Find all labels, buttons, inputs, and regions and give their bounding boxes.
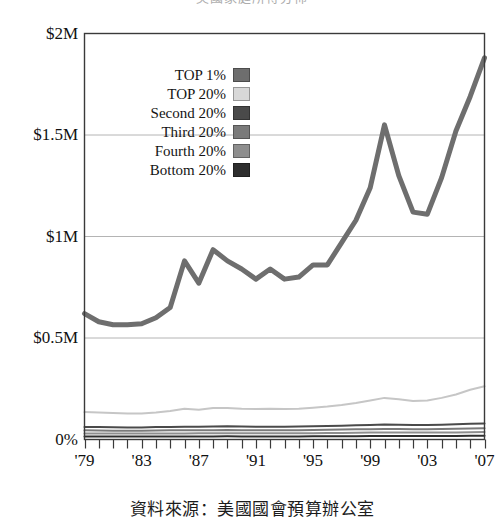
x-tick-label: '91 bbox=[233, 452, 279, 470]
legend-item[interactable]: TOP 20% bbox=[128, 85, 250, 103]
legend-item-label: Bottom 20% bbox=[150, 163, 233, 178]
source-caption: 資料來源：美國國會預算辦公室 bbox=[0, 496, 504, 522]
x-tick-label: '03 bbox=[404, 452, 450, 470]
legend-color-swatch bbox=[233, 68, 250, 82]
legend-color-swatch bbox=[233, 163, 250, 177]
x-axis: '79'83'87'91'95'99'03'07 bbox=[0, 0, 504, 495]
x-tick-label: '79 bbox=[62, 452, 108, 470]
legend-item-label: TOP 1% bbox=[175, 68, 233, 83]
legend-item-label: Third 20% bbox=[161, 125, 233, 140]
x-tick-label: '87 bbox=[176, 452, 222, 470]
legend-item[interactable]: Bottom 20% bbox=[128, 161, 250, 179]
legend-item-label: TOP 20% bbox=[167, 87, 233, 102]
legend-item[interactable]: Third 20% bbox=[128, 123, 250, 141]
legend-color-swatch bbox=[233, 87, 250, 101]
legend-color-swatch bbox=[233, 125, 250, 139]
legend-color-swatch bbox=[233, 144, 250, 158]
legend-item[interactable]: Second 20% bbox=[128, 104, 250, 122]
legend-item-label: Fourth 20% bbox=[155, 144, 233, 159]
chart-figure: 美國家庭所得分佈 $2M$1.5M$1M$0.5M0% '79'83'87'91… bbox=[0, 0, 504, 531]
x-tick-label: '99 bbox=[347, 452, 393, 470]
legend-item-label: Second 20% bbox=[151, 106, 233, 121]
x-tick-label: '83 bbox=[119, 452, 165, 470]
legend-color-swatch bbox=[233, 106, 250, 120]
legend-item[interactable]: TOP 1% bbox=[128, 66, 250, 84]
legend-item[interactable]: Fourth 20% bbox=[128, 142, 250, 160]
x-tick-label: '07 bbox=[462, 452, 504, 470]
x-tick-label: '95 bbox=[290, 452, 336, 470]
chart-legend: TOP 1%TOP 20%Second 20%Third 20%Fourth 2… bbox=[128, 66, 250, 180]
